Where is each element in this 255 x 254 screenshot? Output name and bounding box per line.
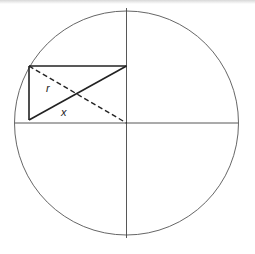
label-r: r — [46, 82, 51, 94]
geometry-diagram: r x — [0, 0, 255, 254]
label-x: x — [60, 106, 67, 118]
